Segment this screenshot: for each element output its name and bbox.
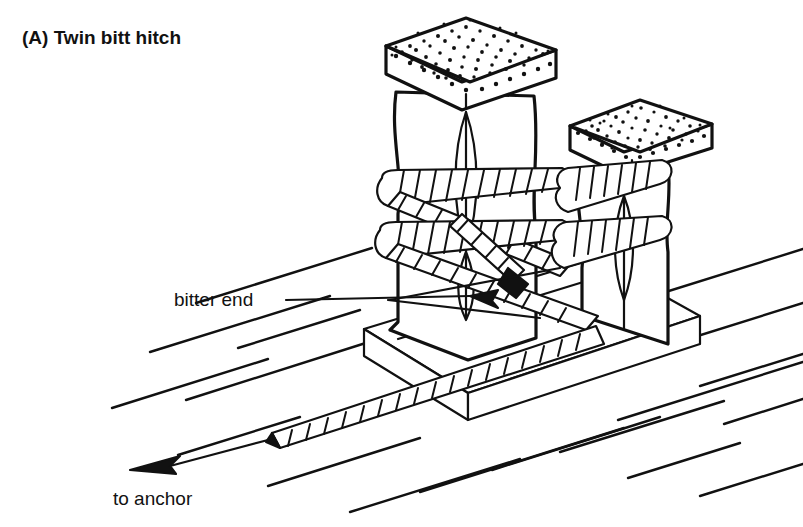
to-anchor-label: to anchor — [113, 488, 193, 509]
twin-bitt-hitch-illustration: bitter end to anchor (A) Twin bitt hitch — [0, 0, 803, 527]
figure-twin-bitt-hitch: bitter end to anchor (A) Twin bitt hitch — [0, 0, 803, 527]
bitter-end-label: bitter end — [174, 289, 253, 310]
figure-title: (A) Twin bitt hitch — [22, 27, 181, 48]
